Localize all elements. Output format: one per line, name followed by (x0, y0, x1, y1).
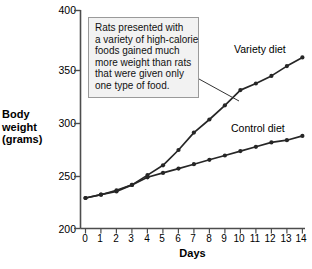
data-point (192, 162, 196, 166)
chart-container: Body weight (grams) Days 400 350 300 250… (0, 0, 312, 269)
annotation-line-4: more weight than rats (95, 57, 193, 69)
series-line-control-diet (86, 136, 303, 198)
data-point (269, 74, 273, 78)
annotation-line-1: Rats presented with (95, 22, 193, 34)
annotation-line-2: a variety of high-calorie (95, 34, 193, 46)
series-label-variety-diet: Variety diet (234, 43, 286, 55)
data-point (161, 171, 165, 175)
data-point (238, 149, 242, 153)
data-point (285, 138, 289, 142)
data-point (269, 140, 273, 144)
data-point (254, 145, 258, 149)
annotation-line-6: one type of food. (95, 80, 193, 92)
annotation-line-5: that were given only (95, 68, 193, 80)
data-point (176, 148, 180, 152)
annotation-pointer-line (199, 79, 239, 101)
series-markers-control-diet (83, 134, 304, 200)
series-label-control-diet: Control diet (231, 122, 285, 134)
annotation-line-3: foods gained much (95, 45, 193, 57)
data-point (223, 103, 227, 107)
data-point (207, 117, 211, 121)
data-point (192, 131, 196, 135)
data-point (161, 163, 165, 167)
data-point (300, 134, 304, 138)
data-point (114, 188, 118, 192)
data-point (145, 175, 149, 179)
data-point (223, 153, 227, 157)
data-point (176, 167, 180, 171)
y-axis-ticks (74, 11, 81, 229)
data-point (300, 55, 304, 59)
data-point (207, 158, 211, 162)
data-point (285, 64, 289, 68)
data-point (238, 88, 242, 92)
data-point (130, 183, 134, 187)
annotation-callout: Rats presented with a variety of high-ca… (88, 17, 199, 98)
data-point (254, 81, 258, 85)
data-point (99, 193, 103, 197)
data-point (83, 196, 87, 200)
